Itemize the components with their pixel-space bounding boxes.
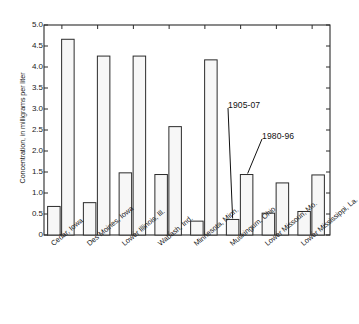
y-tick-label: 4.5 (32, 42, 43, 50)
bar-0-0 (48, 206, 61, 235)
bar-0-3 (155, 175, 168, 235)
y-tick-label: 3.0 (32, 105, 43, 113)
bar-1-3 (169, 127, 182, 235)
y-tick-label: 4.0 (32, 63, 43, 71)
bar-1-4 (205, 60, 218, 235)
bar-0-1 (83, 203, 96, 235)
y-tick-label: 5.0 (32, 21, 43, 29)
y-tick-label: 2.0 (32, 147, 43, 155)
bar-1-1 (97, 56, 110, 235)
y-tick-label: 1.5 (32, 168, 43, 176)
y-tick-label: 0 (39, 231, 43, 239)
y-axis-tick-labels: 5.04.54.03.53.02.52.01.51.00.50 (26, 0, 43, 324)
y-tick-label: 2.5 (32, 126, 43, 134)
bar-1-2 (133, 56, 146, 235)
annotation-label: 1905-07 (228, 100, 260, 110)
bar-1-0 (62, 39, 75, 235)
y-tick-label: 1.0 (32, 189, 43, 197)
annotation-label: 1980-96 (262, 131, 294, 141)
y-tick-label: 3.5 (32, 84, 43, 92)
y-tick-label: 0.5 (32, 210, 43, 218)
